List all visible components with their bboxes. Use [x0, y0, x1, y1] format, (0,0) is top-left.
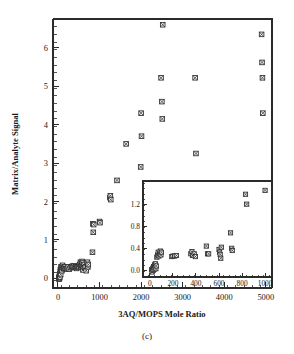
- inset-x-tick-label: 200: [167, 279, 178, 288]
- inset-y-tick-label: 1.2: [131, 200, 141, 209]
- y-tick-label: 4: [44, 121, 49, 130]
- y-tick-label: 1: [44, 236, 48, 245]
- inset-panel: [143, 181, 272, 277]
- x-tick-label: 4000: [216, 293, 233, 302]
- main-y-axis-ticks: 0123456: [44, 27, 59, 288]
- x-tick-label: 5000: [257, 293, 274, 302]
- inset-y-tick-label: 0.0: [131, 266, 141, 275]
- x-tick-label: 0: [56, 293, 60, 302]
- y-tick-label: 5: [44, 82, 48, 91]
- x-tick-label: 3000: [174, 293, 191, 302]
- inset-x-tick-label: 600: [213, 279, 224, 288]
- x-tick-label: 2000: [133, 293, 150, 302]
- y-tick-label: 6: [44, 44, 48, 53]
- inset-y-tick-label: 0.8: [131, 222, 141, 231]
- inset-x-tick-label: 800: [237, 279, 248, 288]
- figure-panel-c: 0123456 010002000300040005000 0.00.40.81…: [0, 0, 294, 354]
- inset-y-tick-label: 0.4: [131, 244, 141, 253]
- y-tick-label: 2: [44, 198, 48, 207]
- y-tick-label: 0: [44, 274, 48, 283]
- y-axis-title: Matrix/Analyte Signal: [10, 112, 20, 194]
- x-axis-title: 3AQ/MOPS Mole Ratio: [118, 309, 205, 319]
- inset-x-tick-label: 1000: [258, 279, 273, 288]
- scatter-plot-svg: 0123456 010002000300040005000 0.00.40.81…: [0, 0, 294, 354]
- inset-x-tick-label: 0: [148, 279, 152, 288]
- y-tick-label: 3: [44, 159, 48, 168]
- x-tick-label: 1000: [91, 293, 108, 302]
- figure-caption: (c): [142, 331, 152, 341]
- inset-x-tick-label: 400: [190, 279, 201, 288]
